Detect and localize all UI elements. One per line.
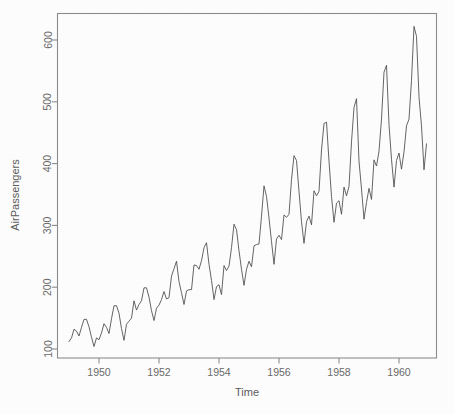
air-passengers-series-line: [69, 26, 427, 346]
y-tick-label: 500: [42, 93, 54, 111]
x-axis-title: Time: [235, 386, 259, 398]
plot-frame-box: [58, 14, 437, 359]
x-axis-ticks: [99, 358, 399, 364]
y-axis-ticks: [52, 40, 58, 349]
y-axis-title: AirPassengers: [9, 159, 21, 231]
y-tick-label: 300: [42, 216, 54, 234]
x-tick-label: 1950: [87, 366, 111, 378]
y-tick-label: 600: [42, 31, 54, 49]
x-tick-label: 1956: [267, 366, 291, 378]
y-axis-tick-labels: 100200300400500600: [42, 31, 54, 358]
air-passengers-plot-figure: 100200300400500600 195019521954195619581…: [0, 0, 454, 414]
x-tick-label: 1958: [327, 366, 351, 378]
x-tick-label: 1960: [387, 366, 411, 378]
x-axis-tick-labels: 195019521954195619581960: [87, 366, 411, 378]
y-tick-label: 200: [42, 278, 54, 296]
x-tick-label: 1954: [207, 366, 231, 378]
y-tick-label: 400: [42, 155, 54, 173]
plot-canvas: 100200300400500600 195019521954195619581…: [0, 0, 454, 414]
y-tick-label: 100: [42, 340, 54, 358]
x-tick-label: 1952: [147, 366, 171, 378]
